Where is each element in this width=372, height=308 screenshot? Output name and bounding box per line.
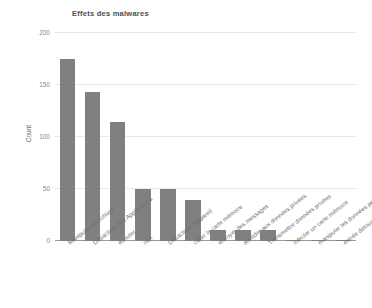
x-tick-label: manipuler les données perso <box>317 241 321 246</box>
y-tick-label: 50 <box>43 185 50 192</box>
x-tick-label: Manipuler les fichiers <box>67 241 71 246</box>
bar[interactable] <box>60 59 76 241</box>
x-tick-label: cibler la carte mémoire <box>192 241 196 246</box>
x-tick-label: envoyer des messages <box>217 241 221 246</box>
y-tick-label: 200 <box>39 29 50 36</box>
bar-chart: Effets des malwares Count 050100150200 M… <box>0 0 372 308</box>
x-tick-label: infecter un carte mémoire <box>292 241 296 246</box>
bar[interactable] <box>160 189 176 241</box>
x-tick-label: Transmettre données privées <box>267 241 271 246</box>
x-tick-label: écouter <box>117 241 121 246</box>
y-tick-label: 150 <box>39 81 50 88</box>
x-tick-label: accéder aux données privées <box>242 241 246 246</box>
y-tick-label: 0 <box>46 237 50 244</box>
x-tick-label: rien <box>142 241 146 246</box>
x-tick-label: entrée détournée <box>342 241 346 246</box>
x-axis-labels: Manipuler les fichiersDésactiver des App… <box>55 241 356 308</box>
x-tick-label: Désactiver l'appareil <box>167 241 171 246</box>
x-tick-label: Désactiver des Applications <box>92 241 96 246</box>
y-tick-label: 100 <box>39 133 50 140</box>
y-axis-title: Count <box>25 104 32 164</box>
chart-title: Effets des malwares <box>72 9 149 18</box>
